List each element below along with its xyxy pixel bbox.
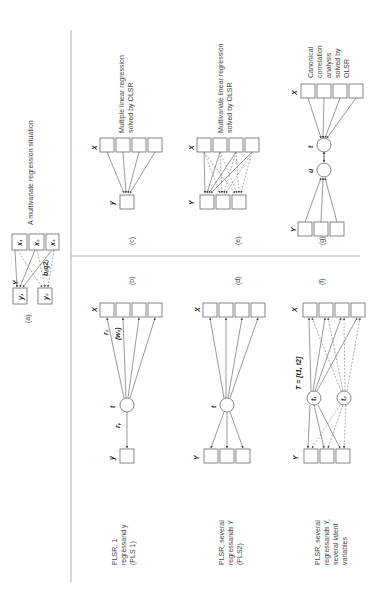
x-node (219, 303, 233, 317)
panel-d: (d) X t Y PLSR, several regressands Y (P… (193, 276, 265, 565)
x-node (132, 303, 146, 317)
x-group-label: X (291, 89, 298, 96)
latent-matrix-label: T = [t1, t2] (295, 356, 303, 390)
x-group-label: X (91, 306, 98, 313)
y-node (204, 449, 218, 463)
panel-g-desc-1: Canonical (307, 46, 314, 78)
edge-label: (w₁) (114, 327, 122, 340)
y-node (330, 222, 344, 236)
x-node (303, 303, 317, 317)
y-group-label: Y (292, 454, 299, 460)
x-node (116, 138, 130, 152)
x-node (349, 84, 363, 98)
y-group-label: Y (193, 454, 200, 460)
latent-label: t₂ (340, 396, 347, 401)
latent-label: t (307, 145, 314, 148)
y-node (336, 449, 350, 463)
x1-label: x₁ (16, 239, 23, 247)
panel-d-desc-3: (PLS2) (236, 543, 244, 565)
y-node (298, 222, 312, 236)
y-node (216, 195, 230, 209)
latent-label: t₁ (310, 396, 317, 401)
edge-label: rᵧ (114, 422, 121, 428)
panel-c-desc-2: solved by OLSR (127, 82, 135, 133)
x-node (148, 138, 162, 152)
panel-g-desc-2: correlation (316, 45, 323, 78)
latent-t (317, 138, 331, 152)
y-node (320, 449, 334, 463)
y-node (120, 449, 134, 463)
latent-label: t (109, 405, 116, 408)
y-group-label: y (108, 455, 116, 461)
panel-e-desc-2: solved by OLSR (226, 82, 234, 133)
panel-a-label: (a) (24, 314, 32, 323)
y-group-label: Y (12, 279, 19, 285)
x-node (319, 303, 333, 317)
x3-label: x₃ (49, 239, 56, 247)
x-node (317, 84, 331, 98)
y1-label: y₁ (17, 293, 25, 301)
x-node (251, 303, 265, 317)
panel-a: (a) A multivariate regression situation … (11, 120, 59, 323)
x-node (213, 138, 227, 152)
panel-g-desc-4: solved by (334, 48, 342, 78)
panel-f-desc-1: PLSR, several (314, 520, 321, 565)
x-node (235, 303, 249, 317)
panel-f-desc-4: variables (341, 536, 348, 565)
latent-label: u (307, 168, 314, 173)
latent-u (317, 163, 331, 177)
panel-d-desc-2: regressands Y (227, 520, 235, 565)
regression-methods-diagram: (a) A multivariate regression situation … (0, 0, 377, 613)
x-node (351, 303, 365, 317)
x-node (116, 303, 130, 317)
x-node (132, 138, 146, 152)
panel-c-desc-1: Multiple linear regression (118, 55, 126, 133)
x-node (333, 84, 347, 98)
x-group-label: X (194, 306, 201, 313)
x-node (100, 303, 114, 317)
panel-d-label: (d) (234, 276, 242, 285)
panel-g-desc-3: analysis (325, 52, 333, 78)
y2-label: y₂ (42, 293, 50, 301)
panel-g-desc-5: OLSR (343, 59, 350, 78)
panel-b: (b) X t r₁ (w₁) rᵧ y PLSR, 1 regressand … (91, 276, 162, 565)
panel-e-label: (e) (234, 236, 242, 245)
latent-label: t (210, 405, 217, 408)
panel-e-desc-1: Multivariate linear regression (217, 43, 225, 133)
panel-f-label: (f) (318, 278, 326, 285)
panel-a-title: A multivariate regression situation (27, 120, 35, 225)
panel-c-label: (c) (128, 237, 136, 245)
latent-t (120, 398, 134, 412)
x-node (335, 303, 349, 317)
x-node (229, 138, 243, 152)
x-node (203, 303, 217, 317)
y-node (200, 195, 214, 209)
x-node (197, 138, 211, 152)
panel-b-label: (b) (128, 276, 136, 285)
y-group-label: Y (290, 226, 297, 232)
y-node (232, 195, 246, 209)
panel-b-desc-3: (PLS 1) (129, 541, 137, 565)
coef-label: b₍q2₎ (42, 260, 50, 276)
y-node (120, 195, 134, 209)
panel-f-desc-2: regressands Y, (323, 519, 331, 565)
y-node (314, 222, 328, 236)
x-node (100, 138, 114, 152)
y-group-label: Y (188, 199, 195, 205)
panel-f: (f) X T = [t1, t2] t₁ t₂ Y PLSR, several… (291, 278, 365, 565)
panel-b-desc-2: regressand y (120, 524, 128, 565)
panel-e: (e) X Y Multivariate linear regression s… (188, 43, 259, 245)
panel-d-desc-1: PLSR, several (218, 520, 225, 565)
y-node (236, 449, 250, 463)
x-node (148, 303, 162, 317)
x-node (245, 138, 259, 152)
y-node (304, 449, 318, 463)
panel-b-desc-1: PLSR, 1 (111, 539, 118, 565)
panel-f-desc-3: several latent (332, 523, 339, 565)
x2-label: x₂ (33, 239, 40, 247)
y-node (220, 449, 234, 463)
panel-g: (g) X t u Y Canonical correlation analys… (290, 45, 363, 245)
latent-t (220, 398, 234, 412)
y-group-label: y (108, 200, 116, 206)
x-group-label: X (291, 306, 298, 313)
